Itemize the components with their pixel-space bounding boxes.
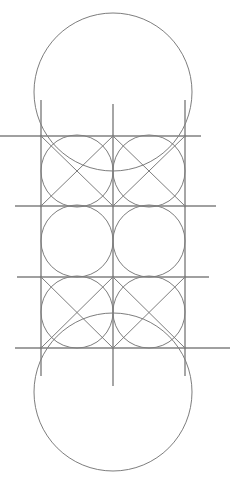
node-2-3 <box>184 205 186 207</box>
node-1-2 <box>112 135 114 137</box>
grid-lines-group <box>0 100 230 386</box>
node-3-1 <box>40 276 42 278</box>
circle-r2c1 <box>41 205 113 277</box>
node-2-2 <box>112 205 114 207</box>
node-4-3 <box>184 347 186 349</box>
node-1-3 <box>184 135 186 137</box>
node-2-1 <box>40 205 42 207</box>
node-4-2 <box>112 347 114 349</box>
node-3-2 <box>112 276 114 278</box>
geometric-figure-svg <box>0 0 230 483</box>
geometric-figure-canvas <box>0 0 230 483</box>
node-3-3 <box>184 276 186 278</box>
node-4-1 <box>40 347 42 349</box>
circle-r2c2 <box>113 205 185 277</box>
node-1-1 <box>40 135 42 137</box>
